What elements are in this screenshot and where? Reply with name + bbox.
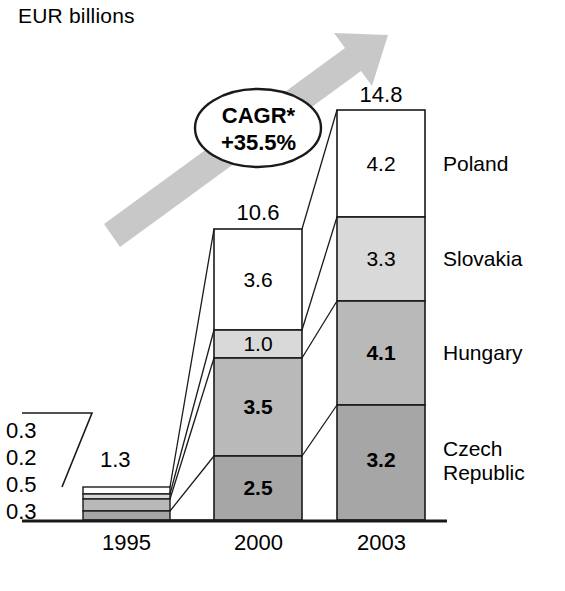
segment-value-2003-poland: 4.2	[337, 152, 425, 176]
total-label-2000: 10.6	[206, 200, 310, 226]
series-label-hungary: Hungary	[443, 341, 522, 365]
breakout-value-slovakia: 0.2	[6, 445, 37, 471]
chart-figure: EUR billions	[0, 0, 565, 591]
series-label-poland: Poland	[443, 152, 508, 176]
x-axis-tick-2000: 2000	[206, 530, 311, 556]
x-axis-tick-2003: 2003	[329, 530, 434, 556]
cagr-callout-line1: CAGR*	[196, 104, 321, 128]
breakout-value-hungary: 0.5	[6, 472, 37, 498]
segment-value-2000-slovakia: 1.0	[214, 332, 302, 356]
connector-lines-1995-2000	[170, 229, 214, 520]
series-label-czech-line2: Republic	[443, 461, 525, 485]
series-label-slovakia: Slovakia	[443, 247, 522, 271]
cagr-callout-line2: +35.5%	[196, 131, 321, 155]
cagr-callout-ellipse	[195, 89, 321, 167]
segment-value-2000-hungary: 3.5	[214, 395, 302, 419]
total-label-2003: 14.8	[329, 82, 433, 108]
bar-1995	[83, 487, 170, 520]
breakout-value-czech: 0.3	[6, 499, 37, 525]
x-axis-tick-1995: 1995	[74, 530, 179, 556]
segment-value-2000-czech: 2.5	[214, 476, 302, 500]
breakout-value-poland: 0.3	[6, 418, 37, 444]
chart-canvas	[0, 0, 565, 591]
segment-value-2000-poland: 3.6	[214, 268, 302, 292]
series-label-czech-line1: Czech	[443, 437, 503, 461]
segment-value-2003-czech: 3.2	[337, 448, 425, 472]
segment-value-2003-slovakia: 3.3	[337, 247, 425, 271]
connector-lines-2000-2003	[302, 110, 337, 456]
segment-value-2003-hungary: 4.1	[337, 341, 425, 365]
total-label-1995: 1.3	[100, 447, 156, 473]
